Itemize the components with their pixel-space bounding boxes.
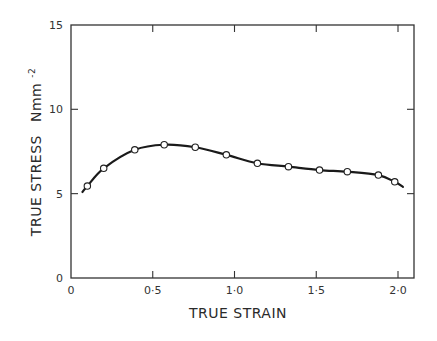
data-point-marker [192, 144, 198, 150]
x-tick-label: 1·0 [226, 284, 244, 297]
x-tick-label: 1·5 [308, 284, 326, 297]
x-tick-label: 2·0 [389, 284, 407, 297]
data-point-marker [344, 169, 350, 175]
y-tick-label: 15 [49, 19, 63, 32]
data-point-marker [254, 160, 260, 166]
x-tick-label: 0 [68, 284, 75, 297]
x-tick-labels: 00·51·01·52·0 [68, 284, 407, 297]
y-tick-label: 10 [49, 103, 63, 116]
y-tick-labels: 051015 [49, 19, 63, 285]
data-curve [82, 145, 402, 192]
plot-frame [71, 25, 414, 278]
data-point-marker [101, 165, 107, 171]
y-tick-label: 0 [56, 272, 63, 285]
data-point-marker [316, 167, 322, 173]
data-point-marker [84, 183, 90, 189]
data-markers [84, 142, 398, 190]
svg-text:TRUE STRESS Nmm -2: TRUE STRESS Nmm -2 [27, 68, 44, 237]
data-point-marker [392, 179, 398, 185]
data-point-marker [161, 142, 167, 148]
y-axis-label-text: TRUE STRESS [28, 135, 44, 237]
axis-ticks [71, 25, 414, 278]
data-point-marker [375, 172, 381, 178]
y-tick-label: 5 [56, 188, 63, 201]
y-axis-title: TRUE STRESS Nmm -2 [27, 68, 44, 237]
x-tick-label: 0·5 [144, 284, 162, 297]
data-point-marker [285, 163, 291, 169]
x-axis-title: TRUE STRAIN [188, 305, 287, 321]
y-axis-unit: Nmm [28, 83, 44, 122]
data-point-marker [223, 152, 229, 158]
stress-strain-chart: 00·51·01·52·0 051015 TRUE STRAIN TRUE ST… [0, 0, 437, 341]
data-point-marker [132, 147, 138, 153]
y-axis-unit-exponent: -2 [27, 68, 37, 78]
